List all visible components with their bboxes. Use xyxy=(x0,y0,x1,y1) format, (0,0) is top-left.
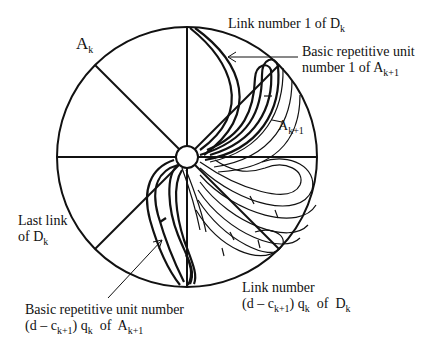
arrow-unit-1 xyxy=(228,52,298,62)
label-link-last: Link number (d – ck+1) qk of Dk xyxy=(242,280,351,317)
label-ak1-inner: Ak+1 xyxy=(278,118,304,139)
label-ak: Ak xyxy=(76,36,93,58)
spiral-lower-left xyxy=(147,160,195,285)
center-hub xyxy=(176,146,198,168)
arrow-unit-last xyxy=(108,240,162,298)
label-unit-last: Basic repetitive unit number (d – ck+1) … xyxy=(25,302,184,339)
label-link-1: Link number 1 of Dk xyxy=(228,16,345,37)
spiral-lower-right xyxy=(196,159,316,256)
label-last-link: Last link of Dk xyxy=(18,213,67,250)
label-unit-1: Basic repetitive unit number 1 of Ak+1 xyxy=(302,44,415,81)
